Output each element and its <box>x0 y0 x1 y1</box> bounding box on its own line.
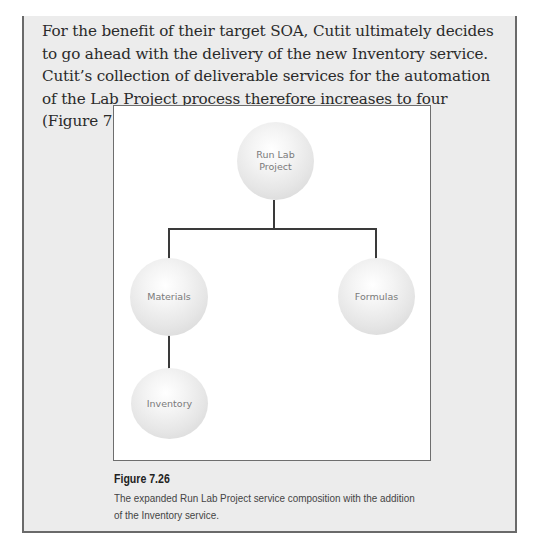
connector-materials-up <box>168 228 170 260</box>
node-materials: Materials <box>130 258 208 336</box>
node-label: Run Lab Project <box>256 149 294 173</box>
figure-caption-text: The expanded Run Lab Project service com… <box>114 490 424 524</box>
connector-materials-inventory <box>168 334 170 370</box>
figure-frame: Run Lab Project Materials Formulas Inven… <box>113 105 431 461</box>
node-formulas: Formulas <box>338 258 415 335</box>
node-run-lab-project: Run Lab Project <box>237 122 314 200</box>
connector-formulas-up <box>375 228 377 260</box>
node-label: Materials <box>147 291 191 303</box>
figure-caption-title: Figure 7.26 <box>114 472 170 486</box>
node-label: Formulas <box>355 291 398 303</box>
node-label: Inventory <box>147 398 192 410</box>
connector-horizontal <box>168 228 375 230</box>
sidebar-box: For the benefit of their target SOA, Cut… <box>22 16 517 533</box>
connector-root-down <box>273 200 275 229</box>
node-inventory: Inventory <box>131 368 208 439</box>
